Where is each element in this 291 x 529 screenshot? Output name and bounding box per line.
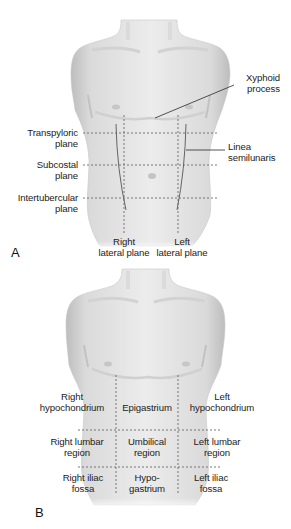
label-line: Hypo- [116,472,178,483]
region-right-iliac-fossa: Right iliac fossa [52,472,114,494]
label-line: fossa [180,483,242,494]
label-line: Transpyloric [0,127,78,138]
label-line: fossa [52,483,114,494]
label-subcostal-plane: Subcostal plane [0,159,78,181]
label-line: gastrium [116,483,178,494]
label-intertubercular-plane: Intertubercular plane [0,192,78,214]
label-line: Linea [228,141,275,152]
label-linea-semilunaris: Linea semilunaris [228,141,275,163]
region-left-iliac-fossa: Left iliac fossa [180,472,242,494]
region-left-hypochondrium: Left hypochondrium [180,391,264,413]
torso-a [71,20,230,246]
region-right-hypochondrium: Right hypochondrium [30,391,114,413]
label-xyphoid-process: Xyphoid process [238,72,280,94]
label-line: region [40,447,114,458]
label-line: hypochondrium [180,402,264,413]
region-right-lumbar: Right lumbar region [40,436,114,458]
label-line: Subcostal [0,159,78,170]
label-line: Left [150,236,214,247]
label-line: Right iliac [52,472,114,483]
label-line: region [116,447,178,458]
label-line: plane [0,170,78,181]
label-line: plane [0,203,78,214]
label-line: Umbilical [116,436,178,447]
label-line: plane [0,138,78,149]
label-line: semilunaris [228,152,275,163]
label-line: Right [92,236,156,247]
torso-b [66,269,225,505]
region-epigastrium: Epigastrium [116,402,178,413]
label-line: lateral plane [150,247,214,258]
region-left-lumbar: Left lumbar region [180,436,254,458]
label-line: Xyphoid [238,72,280,83]
label-line: region [180,447,254,458]
panel-letter-a: A [11,245,20,260]
region-hypogastrium: Hypo- gastrium [116,472,178,494]
label-transpyloric-plane: Transpyloric plane [0,127,78,149]
label-line: Right [30,391,114,402]
label-line: process [238,83,280,94]
panel-b: Right hypochondrium Epigastrium Left hyp… [0,265,291,529]
panel-a: Transpyloric plane Subcostal plane Inter… [0,0,291,265]
label-line: Epigastrium [116,402,178,413]
region-umbilical: Umbilical region [116,436,178,458]
label-line: Left iliac [180,472,242,483]
label-line: lateral plane [92,247,156,258]
label-left-lateral-plane: Left lateral plane [150,236,214,258]
panel-letter-b: B [35,505,44,520]
label-line: Left lumbar [180,436,254,447]
label-line: Left [180,391,264,402]
label-right-lateral-plane: Right lateral plane [92,236,156,258]
label-line: Right lumbar [40,436,114,447]
label-line: Intertubercular [0,192,78,203]
label-line: hypochondrium [30,402,114,413]
